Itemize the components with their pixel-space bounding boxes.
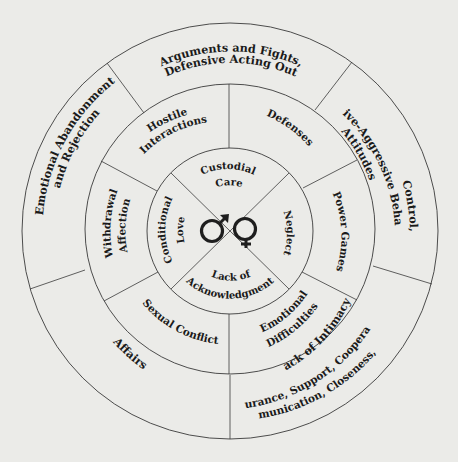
svg-text:Affairs: Affairs <box>110 334 150 372</box>
outer-bl-line1: Affairs <box>110 334 150 372</box>
relationship-problems-wheel: Arguments and Fights, Defensive Acting O… <box>0 0 458 462</box>
mid-tr-line1: Defenses <box>265 107 316 148</box>
outer-label-control: Control, Passive-Aggressive Behavior, At… <box>0 0 421 232</box>
mid-l-line2: Affection <box>115 196 132 255</box>
svg-text:Neglect: Neglect <box>281 209 296 257</box>
in-top-line2: Care <box>214 176 243 189</box>
in-r-line1: Neglect <box>281 209 296 257</box>
inner-label-lack-of-acknowledgment: Lack of Acknowledgment <box>184 268 276 301</box>
inner-circle-dividers <box>171 173 289 289</box>
svg-text:Love: Love <box>174 215 187 244</box>
svg-text:Sexual Conflict: Sexual Conflict <box>140 296 219 346</box>
inner-label-neglect: Neglect <box>281 209 296 257</box>
outer-label-arguments: Arguments and Fights, Defensive Acting O… <box>156 40 305 79</box>
in-l-line2: Love <box>174 215 187 244</box>
middle-label-sexual-conflict: Sexual Conflict <box>140 296 219 346</box>
svg-text:Conditional: Conditional <box>156 194 174 265</box>
svg-text:Power Games: Power Games <box>331 190 352 274</box>
outer-label-emotional-abandonment: Emotional Abandonment and Rejection <box>32 73 118 216</box>
inner-label-custodial-care: Custodial Care <box>199 160 258 189</box>
middle-label-withdrawal-affection: Withdrawal Affection <box>100 187 132 260</box>
inner-label-conditional-love: Conditional Love <box>156 194 186 265</box>
mid-r-line1: Power Games <box>331 190 352 274</box>
svg-text:Defenses: Defenses <box>265 107 316 148</box>
middle-label-hostile-interactions: Hostile Interactions <box>137 105 208 156</box>
svg-text:Custodial: Custodial <box>199 160 258 177</box>
svg-text:Affection: Affection <box>115 196 132 255</box>
svg-text:Care: Care <box>214 176 243 189</box>
in-top-line1: Custodial <box>199 160 258 177</box>
middle-label-power-games: Power Games <box>331 190 352 274</box>
svg-text:Lack of: Lack of <box>210 268 252 283</box>
in-b-line1: Lack of <box>210 268 252 283</box>
in-l-line1: Conditional <box>156 194 174 265</box>
middle-label-defenses: Defenses <box>265 107 316 148</box>
female-symbol-icon <box>235 219 256 249</box>
mid-bl-line1: Sexual Conflict <box>140 296 219 346</box>
outer-label-affairs: Affairs <box>110 334 150 372</box>
male-symbol-icon <box>202 214 230 242</box>
